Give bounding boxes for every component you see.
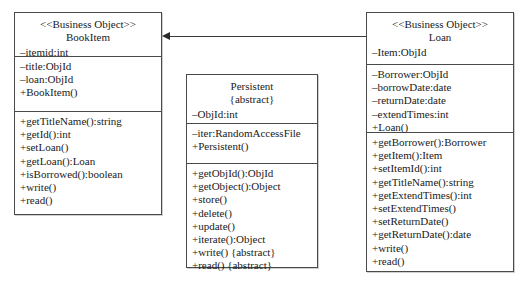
class-stereotype-bookitem: <<Business Object>> (20, 18, 156, 31)
operation-item: +getLoan():Loan (20, 155, 156, 168)
operation-item: +setExtendTimes() (372, 202, 508, 215)
operation-item: +iterate():Object (192, 233, 312, 246)
operation-item: +getItem():Item (372, 149, 508, 162)
class-attributes-persistent: –iter:RandomAccessFile +Persistent() (187, 123, 317, 163)
operation-item: +getTitleName():string (20, 115, 156, 128)
operation-item: +getObjId():ObjId (192, 167, 312, 180)
operation-item: +getBorrower():Borrower (372, 136, 508, 149)
class-stereotype-loan: <<Business Object>> (372, 18, 508, 31)
class-header-bookitem: <<Business Object>> BookItem –itemid:int (15, 13, 161, 56)
attribute-item: +Persistent() (192, 140, 312, 153)
class-header-loan: <<Business Object>> Loan –Item:ObjId (367, 13, 513, 64)
attribute-item: –loan:ObjId (20, 73, 156, 86)
operation-item: +setReturnDate() (372, 215, 508, 228)
class-box-loan[interactable]: <<Business Object>> Loan –Item:ObjId –Bo… (366, 12, 514, 272)
class-operations-bookitem: +getTitleName():string +getId():int +set… (15, 111, 161, 211)
operation-item: +store() (192, 193, 312, 206)
operation-item: +delete() (192, 207, 312, 220)
uml-class-diagram: <<Business Object>> BookItem –itemid:int… (0, 0, 524, 286)
attribute-item: –title:ObjId (20, 60, 156, 73)
operation-item: +getId():int (20, 128, 156, 141)
attribute-item: –Borrower:ObjId (372, 68, 508, 81)
operation-item: +setItemId():int (372, 162, 508, 175)
class-header-persistent: Persistent {abstract} –ObjId:int (187, 75, 317, 123)
class-operations-loan: +getBorrower():Borrower +getItem():Item … (367, 132, 513, 272)
operation-item: +update() (192, 220, 312, 233)
class-name-loan: Loan (372, 31, 508, 44)
class-attributes-bookitem: –title:ObjId –loan:ObjId +BookItem() (15, 56, 161, 111)
attribute-item: –iter:RandomAccessFile (192, 127, 312, 140)
class-name-persistent: Persistent (192, 80, 312, 93)
operation-item: +write() (372, 242, 508, 255)
attribute-item: +BookItem() (20, 86, 156, 99)
class-abstract-tag-persistent: {abstract} (192, 93, 312, 106)
attribute-item: –extendTimes:int (372, 108, 508, 121)
operation-item: +write() {abstract} (192, 246, 312, 259)
association-arrowhead-icon (162, 32, 170, 40)
operation-item: +getReturnDate():date (372, 228, 508, 241)
class-box-persistent[interactable]: Persistent {abstract} –ObjId:int –iter:R… (186, 74, 318, 268)
class-header-attribute-persistent: –ObjId:int (192, 108, 312, 121)
class-operations-persistent: +getObjId():ObjId +getObject():Object +s… (187, 163, 317, 277)
attribute-item: –returnDate:date (372, 94, 508, 107)
attribute-item: –borrowDate:date (372, 81, 508, 94)
operation-item: +getObject():Object (192, 180, 312, 193)
operation-item: +read() (20, 194, 156, 207)
operation-item: +setLoan() (20, 141, 156, 154)
operation-item: +read() {abstract} (192, 259, 312, 272)
class-box-bookitem[interactable]: <<Business Object>> BookItem –itemid:int… (14, 12, 162, 215)
class-header-attribute-loan: –Item:ObjId (372, 46, 508, 59)
class-attributes-loan: –Borrower:ObjId –borrowDate:date –return… (367, 64, 513, 132)
operation-item: +read() (372, 255, 508, 268)
operation-item: +isBorrowed():boolean (20, 168, 156, 181)
class-name-bookitem: BookItem (20, 31, 156, 44)
operation-item: +write() (20, 181, 156, 194)
association-line-loan-to-bookitem (170, 36, 366, 37)
operation-item: +getTitleName():string (372, 176, 508, 189)
operation-item: +getExtendTimes():int (372, 189, 508, 202)
